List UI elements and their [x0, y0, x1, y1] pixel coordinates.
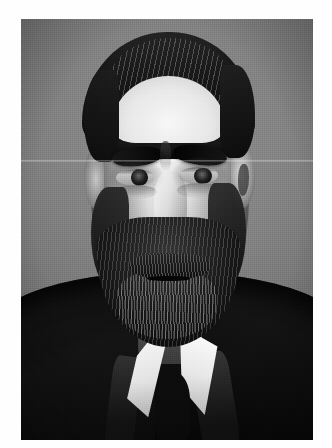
portrait-subject — [21, 19, 313, 440]
left-eyelid — [116, 169, 154, 174]
right-temple-hair — [220, 65, 255, 158]
brow-furrow — [160, 141, 172, 170]
beard-grey-streaks — [117, 272, 216, 339]
portrait-photograph — [21, 19, 313, 440]
left-temple-hair — [84, 70, 119, 163]
page-canvas — [0, 0, 332, 448]
mouth-line — [147, 276, 191, 281]
necktie-knot — [155, 373, 190, 440]
right-eyelid — [179, 167, 218, 172]
left-eye — [116, 169, 154, 186]
